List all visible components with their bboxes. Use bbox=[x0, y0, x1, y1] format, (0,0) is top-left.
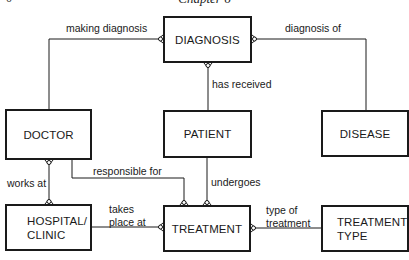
label-diagnosis-of: diagnosis of bbox=[285, 22, 341, 35]
entity-disease: DISEASE bbox=[321, 110, 409, 157]
label-type-of-treatment: type of treatment bbox=[266, 204, 310, 230]
entity-treatment: TREATMENT bbox=[163, 205, 251, 252]
label-has-received: has received bbox=[212, 78, 272, 91]
entity-label: TREATMENT bbox=[172, 222, 242, 236]
crows-foot-icon bbox=[45, 160, 53, 165]
entity-label: DIAGNOSIS bbox=[175, 33, 240, 47]
label-works-at: works at bbox=[7, 177, 46, 190]
line-diagnosis-of bbox=[252, 39, 366, 110]
crows-foot-icon bbox=[251, 224, 256, 232]
entity-treatment-type: TREATMENT TYPE bbox=[321, 205, 409, 252]
label-takes-place-at: takes place at bbox=[109, 203, 146, 229]
entity-label: PATIENT bbox=[184, 127, 232, 141]
crows-foot-icon bbox=[204, 63, 212, 68]
entity-label: HOSPITAL/ CLINIC bbox=[27, 214, 87, 242]
entity-doctor: DOCTOR bbox=[5, 109, 92, 160]
entity-hospital-clinic: HOSPITAL/ CLINIC bbox=[5, 204, 92, 251]
line-making-diagnosis bbox=[49, 39, 163, 109]
entity-label: DOCTOR bbox=[23, 128, 73, 142]
entity-diagnosis: DIAGNOSIS bbox=[163, 16, 252, 63]
label-making-diagnosis: making diagnosis bbox=[66, 22, 147, 35]
entity-label: DISEASE bbox=[340, 127, 391, 141]
label-responsible-for: responsible for bbox=[93, 165, 162, 178]
entity-patient: PATIENT bbox=[163, 110, 252, 158]
label-undergoes: undergoes bbox=[211, 176, 261, 189]
crows-foot-icon bbox=[252, 35, 257, 43]
entity-label: TREATMENT TYPE bbox=[337, 215, 407, 243]
